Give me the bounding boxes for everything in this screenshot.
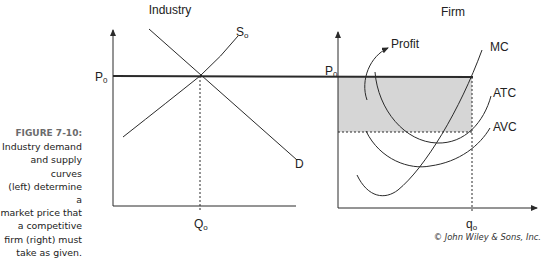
mc-label: MC [490, 40, 509, 54]
atc-label: ATC [493, 86, 516, 100]
avc-label: AVC [493, 120, 517, 134]
profit-area [338, 77, 472, 132]
industry-quantity-label: Qo [194, 217, 208, 232]
demand-curve [149, 29, 297, 160]
supply-label: So [236, 25, 249, 40]
industry-price-label: P0 [95, 70, 108, 85]
demand-label: D [295, 157, 304, 171]
firm-quantity-label: qo [466, 217, 478, 232]
firm-title: Firm [441, 5, 465, 19]
firm-panel: Firm P0 qo Profit MC ATC AVC [325, 5, 537, 232]
profit-label: Profit [391, 37, 420, 51]
industry-panel: Industry P0 Qo So D [95, 3, 304, 232]
supply-curve [123, 36, 238, 137]
copyright-notice: © John Wiley & Sons, Inc. [434, 232, 541, 242]
market-price-line [113, 76, 473, 77]
industry-title: Industry [149, 3, 192, 17]
avc-curve [366, 128, 490, 167]
